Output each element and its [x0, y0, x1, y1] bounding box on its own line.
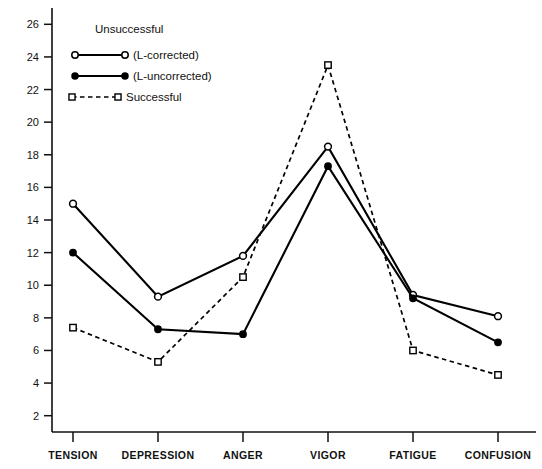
marker-open-square: [325, 62, 331, 68]
legend-entry-label: (L-corrected): [133, 49, 199, 61]
legend-entry-2: (L-uncorrected): [72, 70, 212, 82]
marker-open-square: [115, 94, 121, 100]
marker-filled-circle: [122, 73, 128, 79]
legend-entry-label: (L-uncorrected): [133, 70, 212, 82]
y-tick-label: 26: [27, 18, 39, 30]
marker-filled-circle: [495, 339, 501, 345]
marker-open-circle: [240, 252, 247, 259]
series-path: [73, 147, 498, 317]
y-axis: 2468101214161820222426: [27, 8, 52, 432]
marker-filled-circle: [325, 163, 331, 169]
marker-filled-circle: [72, 73, 78, 79]
series-path: [73, 65, 498, 375]
legend-group-heading: Unsuccessful: [95, 23, 163, 35]
series-layer: [70, 62, 502, 378]
mood-profile-line-chart: 2468101214161820222426 TENSIONDEPRESSION…: [0, 0, 542, 469]
chart-canvas: 2468101214161820222426 TENSIONDEPRESSION…: [0, 0, 542, 469]
y-tick-label: 18: [27, 149, 39, 161]
y-tick-label: 16: [27, 181, 39, 193]
marker-open-circle: [122, 52, 128, 58]
chart-legend: Unsuccessful(L-corrected)(L-uncorrected)…: [69, 23, 212, 103]
y-tick-label: 24: [27, 51, 39, 63]
x-category-label-group: TENSIONDEPRESSIONANGERVIGORFATIGUECONFUS…: [48, 449, 531, 461]
x-category-label-fatigue: FATIGUE: [389, 449, 437, 461]
y-tick-label: 10: [27, 279, 39, 291]
y-tick-group: 2468101214161820222426: [27, 18, 52, 421]
series-1: [70, 143, 502, 319]
marker-open-circle: [70, 200, 77, 207]
legend-entry-label: Successful: [126, 91, 182, 103]
marker-open-square: [495, 372, 501, 378]
y-tick-label: 6: [33, 344, 39, 356]
marker-open-circle: [325, 143, 332, 150]
marker-open-square: [69, 94, 75, 100]
legend-entry-1: (L-corrected): [72, 49, 199, 61]
y-tick-label: 8: [33, 312, 39, 324]
series-3: [70, 62, 501, 378]
marker-open-square: [410, 347, 416, 353]
x-category-label-tension: TENSION: [48, 449, 97, 461]
y-tick-label: 4: [33, 377, 39, 389]
y-tick-label: 2: [33, 410, 39, 422]
x-category-label-anger: ANGER: [223, 449, 263, 461]
marker-filled-circle: [240, 331, 246, 337]
x-category-label-confusion: CONFUSION: [465, 449, 532, 461]
x-axis: TENSIONDEPRESSIONANGERVIGORFATIGUECONFUS…: [48, 432, 536, 461]
x-category-label-vigor: VIGOR: [310, 449, 346, 461]
marker-open-square: [70, 324, 76, 330]
x-tick-group: [73, 432, 498, 442]
y-tick-label: 14: [27, 214, 39, 226]
marker-open-circle: [155, 293, 162, 300]
y-tick-label: 20: [27, 116, 39, 128]
marker-filled-circle: [155, 326, 161, 332]
marker-open-circle: [72, 52, 78, 58]
legend-entry-3: Successful: [69, 91, 182, 103]
marker-open-circle: [495, 313, 502, 320]
y-tick-label: 12: [27, 247, 39, 259]
marker-open-square: [155, 359, 161, 365]
marker-open-square: [240, 274, 246, 280]
y-tick-label: 22: [27, 84, 39, 96]
marker-filled-circle: [70, 249, 76, 255]
marker-filled-circle: [410, 295, 416, 301]
x-category-label-depression: DEPRESSION: [122, 449, 195, 461]
series-2: [70, 163, 501, 346]
series-path: [73, 166, 498, 342]
